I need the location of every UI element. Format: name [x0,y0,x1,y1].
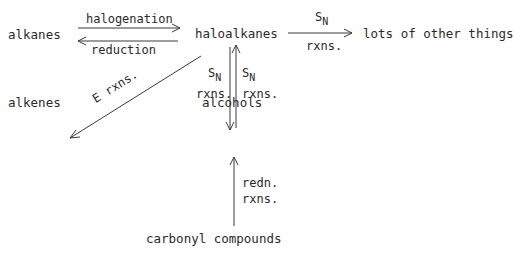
label-sn-top: SN [315,10,328,25]
node-carbonyl-compounds: carbonyl compounds [146,232,281,246]
label-n-subscript: N [322,16,328,27]
label-sn-left: SN [208,66,221,81]
label-n-subscript: N [249,72,255,83]
label-sn-top-rxns: rxns. [306,39,342,53]
arrowhead-icon [70,130,80,138]
node-lots-of-other-things: lots of other things [363,27,514,41]
label-halogenation: halogenation [86,12,173,26]
e-rxns-arrow [70,56,201,138]
label-n-subscript: N [215,72,221,83]
node-alkenes: alkenes [8,96,61,110]
node-alkanes: alkanes [8,28,61,42]
node-haloalkanes: haloalkanes [195,27,278,41]
label-reduction: reduction [91,43,156,57]
label-redn-rxns: rxns. [242,192,278,206]
label-redn: redn. [242,176,278,190]
label-sn-right: SN [242,66,255,81]
label-sn-right-rxns: rxns. [242,87,278,101]
label-sn-left-rxns: rxns. [196,87,232,101]
